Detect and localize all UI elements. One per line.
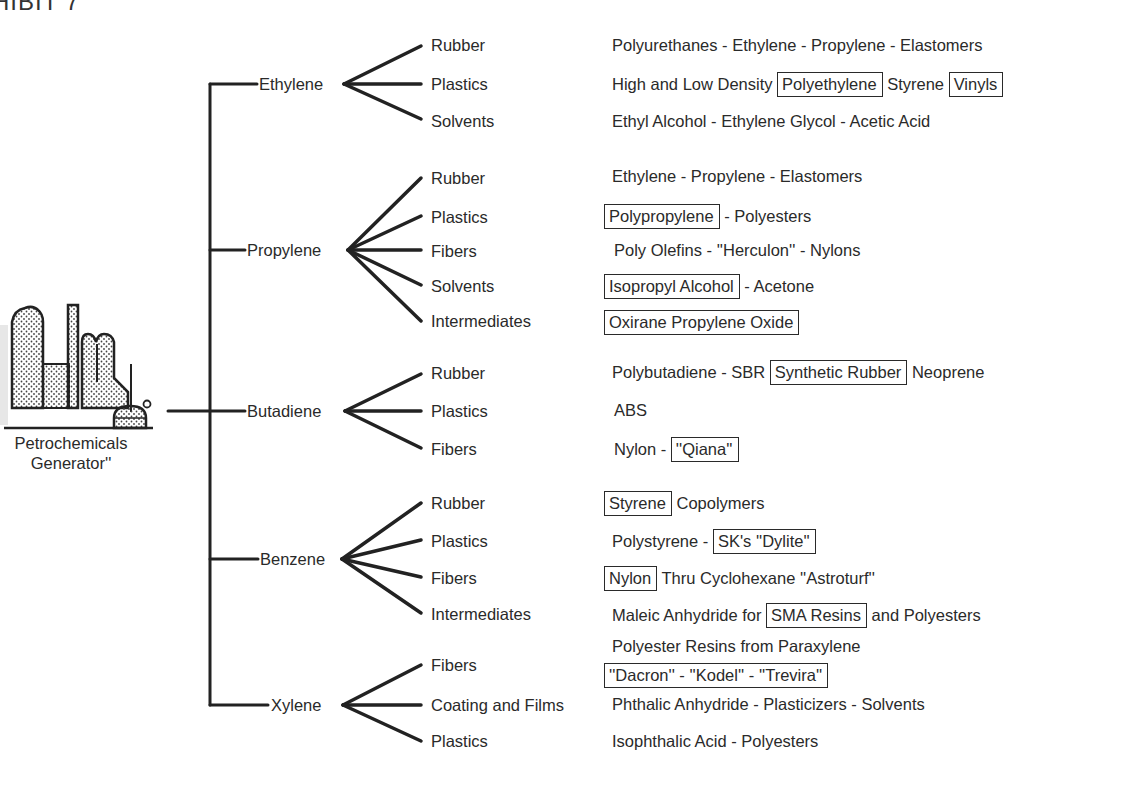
product-text: Isophthalic Acid - Polyesters	[612, 732, 818, 750]
feedstock-butadiene: Butadiene	[247, 400, 321, 422]
feedstock-xylene: Xylene	[271, 694, 321, 716]
product-text: Polybutadiene - SBR	[612, 363, 765, 381]
category-label: Fibers	[431, 567, 477, 589]
category-label: Fibers	[431, 654, 477, 676]
category-label: Rubber	[431, 362, 485, 384]
product-line: Nylon - ''Qiana''	[614, 437, 739, 462]
product-text: Polyurethanes - Ethylene - Propylene - E…	[612, 36, 983, 54]
product-text: Neoprene	[912, 363, 984, 381]
highlighted-product: Vinyls	[949, 72, 1004, 97]
product-line: Ethyl Alcohol - Ethylene Glycol - Acetic…	[612, 110, 930, 132]
product-text: and Polyesters	[872, 606, 981, 624]
tree-connectors	[0, 0, 1139, 786]
product-text: Polyester Resins from Paraxylene	[612, 637, 861, 655]
product-line: Ethylene - Propylene - Elastomers	[612, 165, 862, 187]
highlighted-product: Oxirane Propylene Oxide	[604, 310, 799, 335]
product-line: Oxirane Propylene Oxide	[604, 310, 799, 335]
product-line: Nylon Thru Cyclohexane ''Astroturf''	[604, 566, 875, 591]
highlighted-product: ''Dacron'' - ''Kodel'' - ''Trevira''	[604, 663, 828, 688]
category-label: Plastics	[431, 206, 488, 228]
product-line: Polybutadiene - SBR Synthetic Rubber Neo…	[612, 360, 984, 385]
highlighted-product: SMA Resins	[766, 603, 867, 628]
product-line: Polyester Resins from Paraxylene	[612, 635, 861, 657]
product-text: Maleic Anhydride for	[612, 606, 762, 624]
product-text: High and Low Density	[612, 75, 773, 93]
feedstock-benzene: Benzene	[260, 548, 325, 570]
category-label: Plastics	[431, 400, 488, 422]
product-text: Polystyrene -	[612, 532, 708, 550]
product-line: Polypropylene - Polyesters	[604, 204, 811, 229]
category-label: Fibers	[431, 240, 477, 262]
category-label: Rubber	[431, 34, 485, 56]
product-text: - Polyesters	[724, 207, 811, 225]
product-text: Nylon -	[614, 440, 666, 458]
category-label: Plastics	[431, 730, 488, 752]
product-text: Phthalic Anhydride - Plasticizers - Solv…	[612, 695, 925, 713]
category-label: Intermediates	[431, 310, 531, 332]
product-line: Maleic Anhydride for SMA Resins and Poly…	[612, 603, 981, 628]
highlighted-product: Isopropyl Alcohol	[604, 274, 740, 299]
category-label: Rubber	[431, 167, 485, 189]
product-text: ABS	[614, 401, 647, 419]
product-line: Styrene Copolymers	[604, 491, 765, 516]
product-text: Styrene	[887, 75, 944, 93]
highlighted-product: Polyethylene	[777, 72, 882, 97]
highlighted-product: ''Qiana''	[671, 437, 739, 462]
highlighted-product: Synthetic Rubber	[770, 360, 908, 385]
product-line: Poly Olefins - ''Herculon'' - Nylons	[614, 239, 860, 261]
product-line: Isopropyl Alcohol - Acetone	[604, 274, 814, 299]
product-line: ''Dacron'' - ''Kodel'' - ''Trevira''	[604, 663, 828, 688]
category-label: Coating and Films	[431, 694, 564, 716]
category-label: Solvents	[431, 110, 494, 132]
product-text: Thru Cyclohexane ''Astroturf''	[661, 569, 874, 587]
product-text: Ethyl Alcohol - Ethylene Glycol - Acetic…	[612, 112, 930, 130]
product-line: Polystyrene - SK's ''Dylite''	[612, 529, 816, 554]
product-line: ABS	[614, 399, 647, 421]
category-label: Rubber	[431, 492, 485, 514]
highlighted-product: Styrene	[604, 491, 672, 516]
category-label: Plastics	[431, 73, 488, 95]
product-text: Ethylene - Propylene - Elastomers	[612, 167, 862, 185]
feedstock-ethylene: Ethylene	[259, 73, 323, 95]
product-text: Copolymers	[676, 494, 764, 512]
category-label: Plastics	[431, 530, 488, 552]
product-text: Poly Olefins - ''Herculon'' - Nylons	[614, 241, 860, 259]
category-label: Fibers	[431, 438, 477, 460]
product-line: Isophthalic Acid - Polyesters	[612, 730, 818, 752]
product-line: High and Low Density Polyethylene Styren…	[612, 72, 1003, 97]
product-line: Polyurethanes - Ethylene - Propylene - E…	[612, 34, 983, 56]
highlighted-product: Nylon	[604, 566, 657, 591]
highlighted-product: SK's ''Dylite''	[713, 529, 816, 554]
category-label: Solvents	[431, 275, 494, 297]
product-text: - Acetone	[744, 277, 814, 295]
category-label: Intermediates	[431, 603, 531, 625]
highlighted-product: Polypropylene	[604, 204, 720, 229]
feedstock-propylene: Propylene	[247, 239, 321, 261]
product-line: Phthalic Anhydride - Plasticizers - Solv…	[612, 693, 925, 715]
